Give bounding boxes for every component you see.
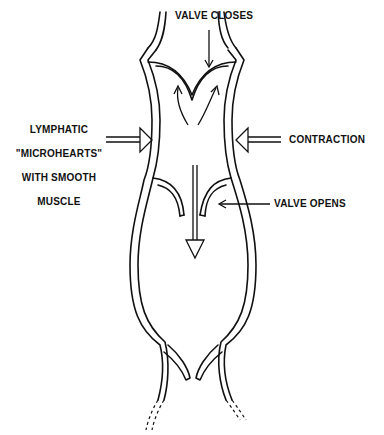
microhearts-line-4: MUSCLE: [14, 196, 104, 208]
microhearts-line-3: WITH SMOOTH: [14, 172, 104, 184]
open-valve-left-inner: [158, 185, 180, 216]
microhearts-arrow: [106, 128, 152, 152]
open-valve-left-tip: [180, 215, 184, 216]
microhearts-label: LYMPHATIC "MICROHEARTS" WITH SMOOTH MUSC…: [14, 112, 104, 220]
left-wall-outer: [130, 48, 163, 400]
open-valve-right-tip: [200, 215, 205, 216]
valve-closes-label: VALVE CLOSES: [175, 10, 253, 22]
open-valve-right-outer: [200, 178, 231, 215]
right-wall-outer: [224, 48, 256, 400]
backflow-arrows: [174, 86, 219, 125]
valve-opens-label: VALVE OPENS: [274, 198, 346, 210]
microhearts-line-1: LYMPHATIC: [14, 124, 104, 136]
valve-closes-arrow: [205, 30, 213, 67]
valve-opens-arrow: [219, 200, 270, 208]
left-wall-inner: [138, 50, 168, 400]
contraction-arrow: [236, 128, 281, 152]
microhearts-line-2: "MICROHEARTS": [14, 148, 104, 160]
top-inlet-left-outer: [148, 12, 160, 48]
open-valve-right-inner: [205, 185, 226, 216]
contraction-label: CONTRACTION: [289, 134, 365, 146]
